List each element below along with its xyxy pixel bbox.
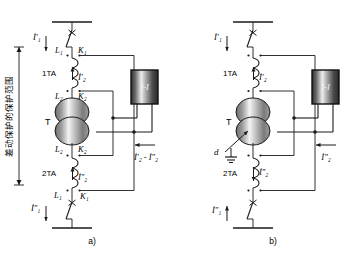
terminal-L1-top-a: L₁ — [54, 45, 63, 55]
caption-a: a) — [88, 236, 96, 246]
junction-dot-outer-a — [132, 130, 136, 134]
circuit-breaker-top-b — [247, 30, 257, 47]
ct-1ta-label-a: 1TA — [42, 69, 57, 78]
diagram-a: 差动保护的保护范围 1TA L₁ K₁ L₂ K₂ İ′₂ — [4, 22, 158, 246]
transformer-label-a: T — [45, 117, 51, 127]
figure-root: 差动保护的保护范围 1TA L₁ K₁ L₂ K₂ İ′₂ — [0, 0, 363, 253]
current-label-i1p-b: İ′₁ — [213, 32, 222, 42]
terminal-K1-top-a: K₁ — [77, 45, 87, 55]
junction-dot-inner-b — [292, 116, 296, 120]
polarity-dot-L1-top-b — [247, 54, 249, 56]
current-label-i1pp-b: İ″₁ — [211, 205, 221, 215]
relay-box-b: I-I — [312, 70, 339, 104]
junction-dot-inner-a — [111, 116, 115, 120]
terminal-L2-upper-a: L₂ — [54, 91, 63, 101]
relay-label-a: I-I — [139, 82, 150, 92]
fault-label-d-b: d — [214, 147, 219, 157]
current-label-i1p-a: İ′₁ — [32, 32, 41, 42]
current-label-i2pp-a: İ″₂ — [77, 172, 87, 182]
relay-box-a: I-I — [131, 70, 158, 104]
current-label-i2p-a: İ′₂ — [77, 72, 86, 82]
ct-2ta-label-b: 2TA — [223, 169, 238, 178]
polarity-dot-L2-top-b — [247, 90, 249, 92]
caption-b: b) — [269, 236, 277, 246]
current-label-i1pp-a: İ″₁ — [30, 203, 40, 213]
relay-label-b: I-I — [320, 82, 331, 92]
protection-range-bracket — [14, 47, 24, 185]
protection-range-label: 差动保护的保护范围 — [4, 76, 14, 157]
secondary-outer-loop-b — [261, 56, 316, 191]
secondary-outer-loop-a — [80, 56, 135, 191]
differential-protection-figure: 差动保护的保护范围 1TA L₁ K₁ L₂ K₂ İ′₂ — [0, 0, 363, 253]
circuit-breaker-bottom-b — [247, 200, 257, 219]
junction-dot-outer-b — [313, 130, 317, 134]
power-transformer-a — [55, 98, 89, 145]
transformer-label-b: T — [226, 117, 232, 127]
current-label-relay-b: İ″₂ — [320, 152, 330, 162]
ct-1ta-label-b: 1TA — [223, 69, 238, 78]
current-label-diff-a: İ′₂ - İ″₂ — [133, 152, 158, 162]
polarity-dot-L1-bot-b — [247, 189, 249, 191]
ct-2ta-label-a: 2TA — [42, 169, 57, 178]
terminal-L1-bot-a: L₁ — [53, 190, 62, 200]
terminal-K2-lower-a: K₂ — [77, 144, 87, 154]
terminal-K1-bot-a: K₁ — [79, 191, 89, 201]
diagram-b: 1TA İ′₂ T d 2TA İ″₂ — [211, 22, 339, 246]
current-label-i2p-b: İ′₂ — [258, 72, 267, 82]
polarity-dot-L2-top-a — [66, 90, 68, 92]
polarity-dot-L2-bot-b — [247, 154, 249, 156]
current-label-i2pp-b: İ″₂ — [258, 167, 268, 177]
polarity-dot-L2-bot-a — [66, 154, 68, 156]
circuit-breaker-top-a — [66, 30, 76, 47]
terminal-L2-lower-a: L₂ — [54, 144, 63, 154]
circuit-breaker-bottom-a — [66, 200, 76, 219]
polarity-dot-L1-top-a — [66, 54, 68, 56]
polarity-dot-L1-bot-a — [66, 189, 68, 191]
